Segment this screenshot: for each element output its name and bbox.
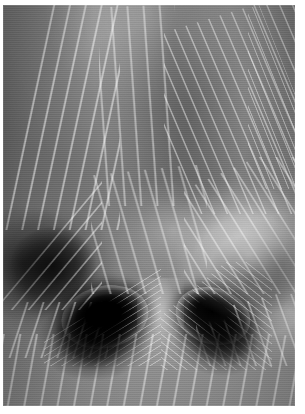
photograph-plate [3,5,295,406]
screenshot-root: Structured-light grid projection on a hu… [0,0,305,414]
plate-edge [3,5,295,406]
